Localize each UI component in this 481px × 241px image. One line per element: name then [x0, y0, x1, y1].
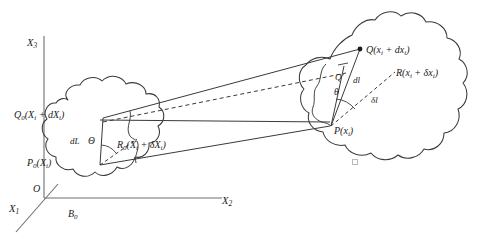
point-label-q: Q(xi + dxi) [366, 45, 409, 55]
segment-label-dL: dL [70, 137, 80, 146]
deformation-diagram: X3 X2 X1 O B0 Q0(Xi + dXi) P0(Xi) R0(Xi … [0, 0, 481, 241]
angle-label-theta: θ [334, 88, 339, 98]
point-label-r0: R0(Xi + δXi) [117, 140, 166, 150]
axis-label-x1: X1 [9, 204, 19, 215]
coordinate-axes [16, 36, 222, 232]
mapping-line-q0-to-q [103, 49, 360, 118]
point-label-p: P(xi) [334, 126, 353, 136]
angle-arc-theta-capital [101, 145, 116, 153]
point-marker-q [358, 47, 363, 52]
stray-mark [352, 159, 358, 165]
point-label-r: R(xi + δxi) [396, 68, 438, 78]
angle-label-theta-capital: Θ [88, 137, 95, 147]
current-body-outline [299, 12, 467, 160]
point-label-p0: P0(Xi) [27, 158, 51, 168]
diagram-canvas [0, 0, 481, 241]
segment-dL [100, 118, 103, 165]
tick-q-prime [338, 63, 348, 65]
reference-inner-boundary [128, 111, 138, 163]
point-label-q0: Q0(Xi + dXi) [14, 110, 64, 120]
axis-label-x2: X2 [222, 196, 232, 207]
current-inner-boundary [312, 64, 331, 126]
origin-label: O [33, 184, 40, 194]
mapping-line-p0-to-p-upper [100, 120, 330, 122]
reference-body-outline [42, 76, 164, 176]
point-label-q-prime: Q′ [335, 73, 343, 82]
reference-body-label: B0 [68, 209, 78, 219]
segment-label-delta-l: δl [371, 96, 378, 105]
segment-label-dl: dl [353, 76, 360, 85]
mapping-line-r0-to-r [103, 73, 346, 122]
axis-label-x3: X3 [27, 38, 37, 49]
